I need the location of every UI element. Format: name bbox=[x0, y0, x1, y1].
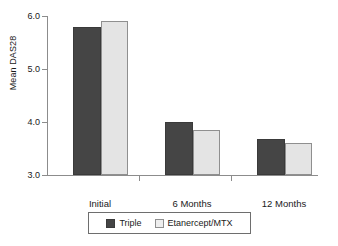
y-axis-tick-4 bbox=[42, 122, 47, 123]
y-axis-label-4: 4.0 bbox=[14, 118, 40, 127]
chart-legend: Triple Etanercept/MTX bbox=[88, 212, 251, 234]
y-axis-tick-5 bbox=[42, 69, 47, 70]
x-axis-tick-2 bbox=[231, 176, 232, 181]
legend-label-triple: Triple bbox=[119, 218, 141, 228]
y-axis-label-5: 5.0 bbox=[14, 65, 40, 74]
x-axis-category-6-months: 6 Months bbox=[149, 198, 235, 209]
legend-item-triple: Triple bbox=[106, 218, 141, 228]
x-axis-category-12-months: 12 Months bbox=[241, 198, 327, 209]
x-axis-line bbox=[47, 175, 318, 176]
bar-etanercept-mtx-12-months bbox=[285, 143, 312, 175]
legend-item-etanercept-mtx: Etanercept/MTX bbox=[155, 218, 233, 228]
bar-chart: Mean DAS28 6.0 5.0 4.0 3.0 Initial 6 Mon… bbox=[0, 0, 338, 246]
light-square-swatch-icon bbox=[155, 219, 164, 228]
bar-etanercept-mtx-6-months bbox=[193, 130, 220, 175]
x-axis-tick-1 bbox=[139, 176, 140, 181]
bar-triple-12-months bbox=[257, 139, 285, 175]
y-axis-tick-3 bbox=[42, 175, 47, 176]
bar-etanercept-mtx-initial bbox=[101, 21, 128, 175]
legend-label-etanercept-mtx: Etanercept/MTX bbox=[168, 218, 233, 228]
y-axis-title: Mean DAS28 bbox=[8, 13, 18, 113]
bar-triple-6-months bbox=[165, 122, 193, 175]
dark-square-swatch-icon bbox=[106, 219, 115, 228]
y-axis-label-6: 6.0 bbox=[14, 12, 40, 21]
bar-triple-initial bbox=[73, 27, 101, 175]
plot-area: 6.0 5.0 4.0 3.0 Initial 6 Months 12 Mont… bbox=[47, 16, 318, 175]
y-axis-tick-6 bbox=[42, 16, 47, 17]
y-axis-line bbox=[47, 16, 48, 176]
x-axis-category-initial: Initial bbox=[57, 198, 143, 209]
y-axis-label-3: 3.0 bbox=[14, 171, 40, 180]
